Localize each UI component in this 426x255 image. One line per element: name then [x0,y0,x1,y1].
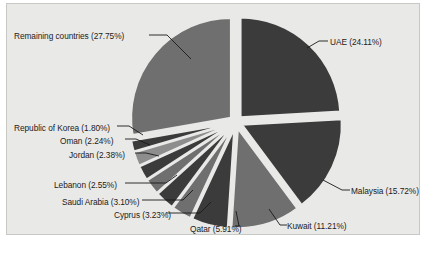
slice-label: Lebanon (2.55%) [54,180,117,190]
slice-label: Saudi Arabia (3.10%) [62,197,139,207]
slice-label: Malaysia (15.72%) [351,186,419,196]
pie-slice[interactable] [240,17,340,117]
pie-slice[interactable] [131,18,231,135]
pie-slices-group [131,17,342,228]
slice-label: Oman (2.24%) [60,136,113,146]
slice-label: Remaining countries (27.75%) [14,31,124,41]
slice-label: UAE (24.11%) [330,37,382,47]
slice-label: Jordan (2.38%) [69,150,125,160]
leader-line [323,180,350,190]
slice-label: Kuwait (11.21%) [287,221,347,231]
slice-label: Qatar (5.91%) [190,224,241,234]
slice-label: Cyprus (3.23%) [114,210,171,220]
pie-chart-figure: UAE (24.11%)Malaysia (15.72%)Kuwait (11.… [0,0,426,255]
chart-plot-area: UAE (24.11%)Malaysia (15.72%)Kuwait (11.… [6,3,420,235]
slice-label: Republic of Korea (1.80%) [14,123,110,133]
